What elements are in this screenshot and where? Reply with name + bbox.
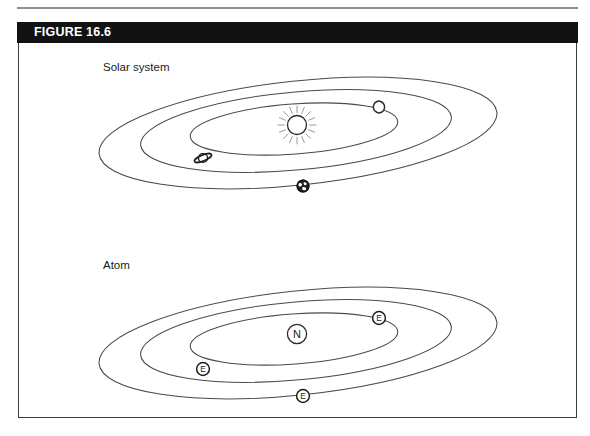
figure-header-bar: FIGURE 16.6 (17, 22, 578, 43)
figure-number-label: FIGURE 16.6 (34, 25, 111, 39)
figure-root: FIGURE 16.6 Solar system Atom (0, 0, 590, 436)
solar-system-panel-title: Solar system (103, 61, 169, 73)
atom-panel-title: Atom (103, 259, 130, 271)
top-horizontal-rule (17, 7, 578, 9)
figure-content-frame (18, 43, 577, 418)
